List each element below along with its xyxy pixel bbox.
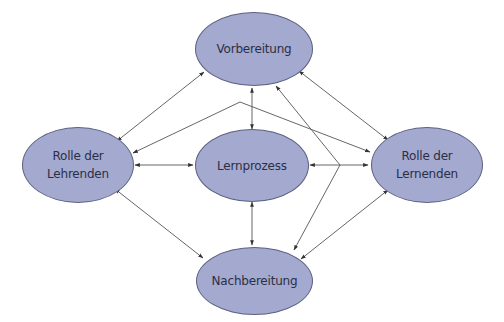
node-lernprozess: Lernprozess — [195, 129, 309, 202]
edge-lernende-nachbereitung — [301, 190, 388, 259]
node-lehrende: Rolle der Lehrenden — [22, 127, 134, 203]
node-lernende: Rolle der Lernenden — [371, 127, 483, 203]
node-nachbereitung: Nachbereitung — [196, 247, 313, 315]
node-label: Nachbereitung — [212, 272, 298, 290]
diagram-canvas: Vorbereitung Rolle der Lehrenden Lernpro… — [0, 0, 504, 322]
node-vorbereitung: Vorbereitung — [195, 12, 313, 86]
edge-vorbereitung-lehrende — [117, 72, 204, 141]
node-label: Vorbereitung — [216, 40, 291, 58]
node-label: Rolle der Lernenden — [396, 147, 458, 183]
node-label: Rolle der Lehrenden — [47, 147, 109, 183]
node-label: Lernprozess — [217, 157, 287, 175]
edge-lehrende-nachbereitung — [115, 189, 203, 258]
